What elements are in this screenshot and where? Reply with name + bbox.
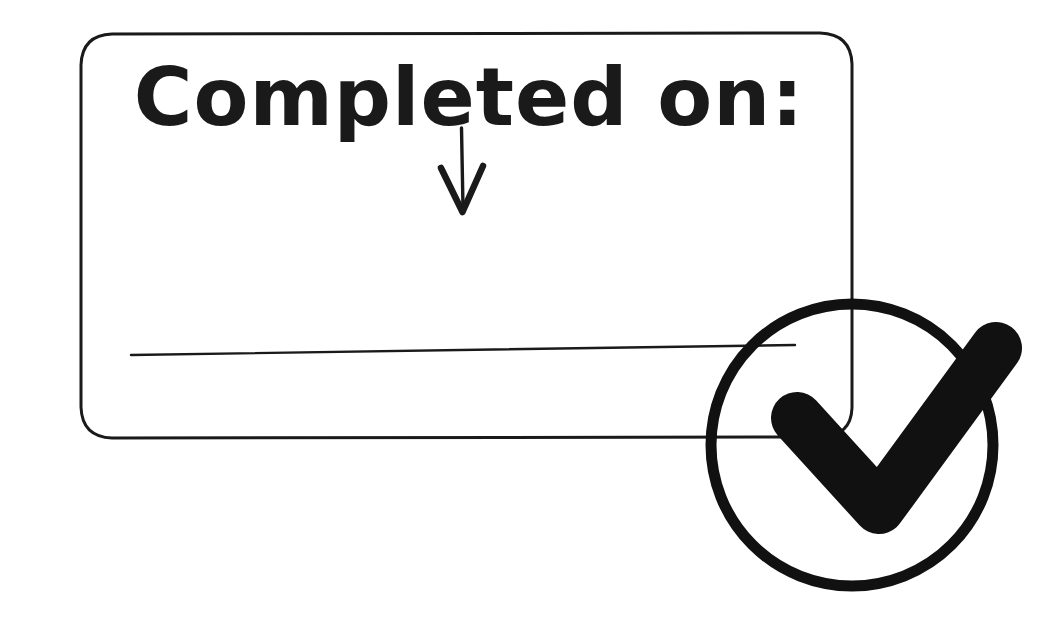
completed-on-illustration: Completed on: (0, 0, 1038, 631)
stamp-canvas: Completed on: Completed on: Completed On… (0, 0, 1038, 631)
card-heading: Completed on: (134, 51, 805, 144)
arrow-shaft (462, 128, 464, 208)
